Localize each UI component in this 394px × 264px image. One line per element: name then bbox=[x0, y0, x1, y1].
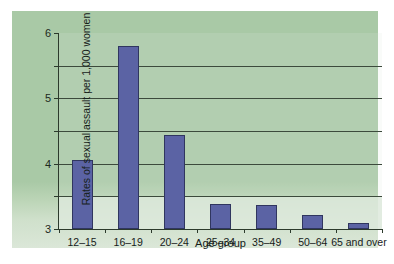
x-axis-line bbox=[58, 229, 382, 230]
x-tick-boundary-5 bbox=[290, 229, 291, 233]
y-tick-label-wrap: 2 bbox=[59, 164, 60, 165]
y-tick-label-wrap: 4 bbox=[59, 98, 60, 99]
gridline-2 bbox=[59, 164, 382, 165]
plot-area: 0123456 12–1516–1920–2425–3435–4950–6465… bbox=[59, 33, 382, 229]
gridline-4 bbox=[59, 98, 382, 99]
x-tick-boundary-2 bbox=[151, 229, 152, 233]
bar-20–24 bbox=[164, 135, 185, 229]
x-axis-title: Age group bbox=[59, 237, 382, 249]
y-axis-label-4: 4 bbox=[45, 158, 51, 170]
gridline-1 bbox=[59, 196, 382, 197]
x-tick-boundary-6 bbox=[336, 229, 337, 233]
gridline-5 bbox=[59, 66, 382, 67]
x-tick-boundary-3 bbox=[197, 229, 198, 233]
y-axis-label-6: 6 bbox=[45, 27, 51, 39]
x-tick-boundary-0 bbox=[59, 229, 60, 233]
y-tick-label-wrap: 3 bbox=[59, 131, 60, 132]
x-tick-boundary-1 bbox=[105, 229, 106, 233]
bar-16–19 bbox=[118, 46, 139, 229]
y-axis-label-5: 5 bbox=[45, 92, 51, 104]
x-tick-boundary-4 bbox=[244, 229, 245, 233]
x-tick-boundary-7 bbox=[382, 229, 383, 233]
chart-figure: 0123456 12–1516–1920–2425–3435–4950–6465… bbox=[0, 0, 394, 264]
y-tick-label-wrap: 5 bbox=[59, 66, 60, 67]
bar-35–49 bbox=[256, 205, 277, 230]
y-tick-label-wrap: 1 bbox=[59, 196, 60, 197]
y-axis-title: Rates of sexual assault per 1,000 women bbox=[80, 11, 92, 207]
plot-upper-band bbox=[59, 33, 382, 196]
chart-panel: 0123456 12–1516–1920–2425–3435–4950–6465… bbox=[12, 11, 378, 248]
y-tick-label-wrap: 6 bbox=[59, 33, 60, 34]
y-axis-label-3: 3 bbox=[45, 223, 51, 235]
bar-25–34 bbox=[210, 204, 231, 229]
gridline-3 bbox=[59, 131, 382, 132]
bar-65-and-over bbox=[348, 223, 369, 229]
bar-50–64 bbox=[302, 215, 323, 229]
